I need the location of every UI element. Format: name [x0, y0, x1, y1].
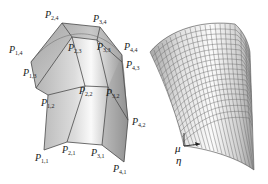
label-p14: P1,4 — [8, 44, 23, 56]
axis-label-eta: η — [176, 154, 181, 166]
label-p34: P3,4 — [92, 13, 107, 25]
label-p24: P2,4 — [44, 9, 59, 21]
label-p44: P4,4 — [123, 41, 138, 53]
label-p31: P3,1 — [90, 147, 105, 159]
label-p11: P1,1 — [34, 152, 49, 164]
bezier-patch-figure: P1,4 P2,4 P3,4 P4,4 P2,3 P3,3 P4,3 P1,3 … — [0, 0, 268, 184]
smooth-surface — [150, 23, 255, 170]
label-p41: P4,1 — [112, 163, 127, 175]
axis-label-mu: μ — [174, 142, 181, 154]
label-p42: P4,2 — [131, 116, 146, 128]
label-p43: P4,3 — [125, 59, 140, 71]
label-p21: P2,1 — [61, 144, 76, 156]
